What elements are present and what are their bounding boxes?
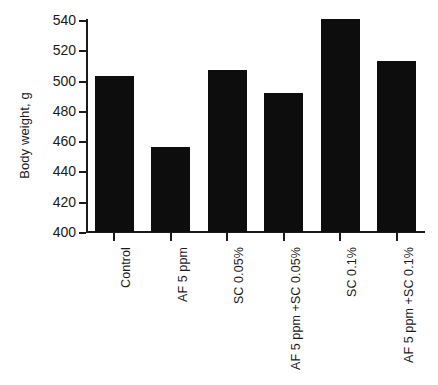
x-axis-tick-label: AF 5 ppm +SC 0.05% [289,247,303,370]
x-axis-tick-label: SC 0.05% [232,247,246,304]
bar-chart-figure: Body weight, g 400420440460480500520540 … [0,0,438,385]
y-axis-tick-mark [79,81,86,83]
x-axis-tick-mark [339,233,341,241]
x-axis-tick-label: SC 0.1% [345,247,359,297]
bar [377,61,416,232]
y-axis-tick-label: 460 [53,133,76,149]
x-axis-tick-mark [113,233,115,241]
x-axis-tick-mark [170,233,172,241]
x-axis-tick-label: AF 5 ppm +SC 0.1% [402,247,416,363]
bar [95,76,134,232]
x-axis-tick-mark [396,233,398,241]
bar [208,70,247,232]
y-axis-tick-label: 400 [53,224,76,240]
x-axis-tick-label: Control [119,247,133,288]
y-axis-tick-mark [79,141,86,143]
x-axis-tick-mark [226,233,228,241]
y-axis-tick-label: 480 [53,103,76,119]
bar [151,147,190,232]
y-axis-tick-label: 440 [53,163,76,179]
y-axis-tick-label: 420 [53,194,76,210]
x-axis-tick-mark [283,233,285,241]
y-axis-tick-mark [79,20,86,22]
y-axis-tick-label: 520 [53,42,76,58]
y-axis-tick-mark [79,202,86,204]
y-axis-tick-label: 540 [53,12,76,28]
y-axis-tick-label: 500 [53,73,76,89]
y-axis-tick-mark [79,111,86,113]
y-axis-tick-mark [79,171,86,173]
y-axis-tick-mark [79,232,86,234]
bar [321,19,360,233]
bar [264,93,303,232]
x-axis-tick-label: AF 5 ppm [176,247,190,302]
plot-area: 400420440460480500520540 [86,20,425,232]
y-axis-title: Body weight, g [17,56,32,216]
y-axis-tick-mark [79,50,86,52]
